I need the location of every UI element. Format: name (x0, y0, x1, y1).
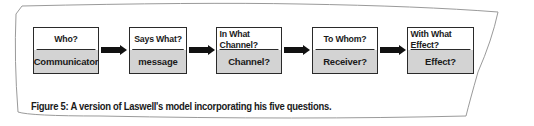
answer-receiver: Receiver? (313, 50, 377, 73)
question-to-whom: To Whom? (316, 28, 375, 50)
arrow-icon (380, 45, 406, 55)
box-to-whom: To Whom? Receiver? (312, 27, 378, 74)
box-says-what: Says What? message (129, 27, 187, 74)
question-says-what: Says What? (132, 28, 184, 50)
arrow-icon (284, 45, 310, 55)
box-in-what-channel: In What Channel? Channel? (216, 27, 282, 74)
answer-message: message (130, 50, 186, 73)
question-with-what-effect: With What Effect? (411, 28, 471, 50)
question-who: Who? (37, 28, 96, 50)
box-who: Who? Communicator (33, 27, 99, 74)
answer-effect: Effect? (408, 50, 473, 73)
question-in-what-channel: In What Channel? (220, 28, 279, 50)
answer-communicator: Communicator (34, 50, 98, 73)
answer-channel: Channel? (217, 50, 281, 73)
arrow-icon (101, 45, 127, 55)
box-with-what-effect: With What Effect? Effect? (407, 27, 474, 74)
figure-caption: Figure 5: A version of Laswell's model i… (31, 100, 331, 112)
arrow-icon (189, 45, 215, 55)
